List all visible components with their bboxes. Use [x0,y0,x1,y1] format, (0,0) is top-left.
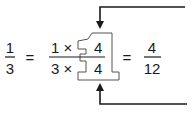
fraction-diagram: 1 3 = 1 × 4 3 × 4 = 4 12 [0,0,193,117]
bottom-arrow [96,83,187,104]
lhs-numerator: 1 [6,39,14,56]
equals-sign-1: = [26,49,35,66]
rhs-denominator: 12 [144,60,161,77]
middle-numerator-mult: 4 [94,39,102,56]
middle-denominator-factor: 3 × [51,60,72,77]
rhs-numerator: 4 [148,39,156,56]
middle-numerator-factor: 1 × [51,39,72,56]
lhs-denominator: 3 [6,60,14,77]
equals-sign-2: = [123,49,132,66]
middle-denominator-mult: 4 [94,60,102,77]
top-arrow [96,7,185,29]
